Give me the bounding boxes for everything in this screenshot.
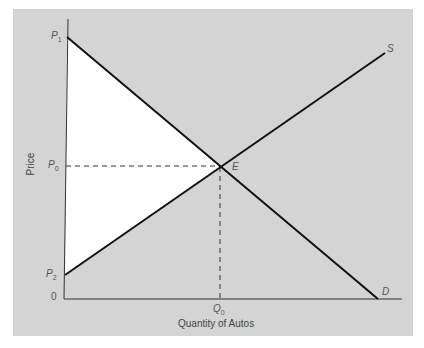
q0-label: Q0	[213, 304, 225, 316]
p0-label: P0	[48, 160, 59, 172]
supply-demand-chart	[0, 0, 424, 348]
supply-label: S	[387, 44, 394, 54]
origin-label: 0	[51, 292, 57, 302]
x-axis-title: Quantity of Autos	[178, 319, 254, 329]
p2-label: P2	[46, 269, 57, 281]
equilibrium-label: E	[232, 162, 239, 172]
surplus-area	[65, 37, 221, 275]
p1-label: P1	[51, 31, 62, 43]
y-axis-title: Price	[26, 149, 36, 179]
demand-label: D	[382, 287, 389, 297]
